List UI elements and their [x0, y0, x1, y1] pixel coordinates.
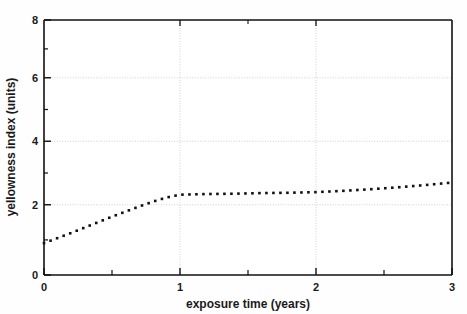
y-tick-label-6: 6	[32, 72, 38, 84]
data-point-marker	[377, 187, 380, 190]
data-point-marker	[95, 222, 98, 225]
data-point-marker	[433, 183, 436, 186]
data-point-marker	[272, 192, 275, 195]
data-point-marker	[244, 192, 247, 195]
data-point-marker	[356, 189, 359, 192]
data-point-marker	[265, 192, 268, 195]
data-point-marker	[363, 188, 366, 191]
data-point-marker	[405, 185, 408, 188]
data-point-marker	[321, 191, 324, 194]
data-point-marker	[202, 193, 205, 196]
data-point-marker	[412, 185, 415, 188]
data-point-marker	[82, 227, 85, 230]
data-point-marker	[195, 193, 198, 196]
data-point-marker	[279, 192, 282, 195]
x-tick-labels: 0 1 2 3	[41, 281, 455, 293]
chart-figure: 8 6 4 2 0 0 1 2 3 exposure time (years) …	[0, 0, 467, 314]
data-point-marker	[391, 186, 394, 189]
data-point-marker	[174, 194, 177, 197]
data-point-marker	[75, 229, 78, 232]
data-point-marker	[209, 193, 212, 196]
x-tick-label-2: 2	[313, 281, 319, 293]
data-point-marker	[293, 191, 296, 194]
data-point-marker	[154, 200, 157, 203]
data-point-marker	[251, 192, 254, 195]
data-point-marker	[342, 190, 345, 193]
data-point-marker	[108, 216, 111, 219]
data-point-marker	[328, 190, 331, 193]
data-point-marker	[384, 187, 387, 190]
x-tick-label-0: 0	[41, 281, 47, 293]
data-point-marker	[167, 196, 170, 199]
x-axis-title: exposure time (years)	[186, 297, 310, 311]
data-point-marker	[134, 207, 137, 210]
x-tick-label-1: 1	[177, 281, 183, 293]
x-tick-label-3: 3	[449, 281, 455, 293]
data-point-marker	[286, 191, 289, 194]
data-point-marker	[188, 193, 191, 196]
data-point-marker	[56, 237, 59, 240]
plot-background	[44, 20, 452, 275]
y-tick-label-4: 4	[32, 135, 39, 147]
data-point-marker	[43, 242, 46, 245]
data-point-marker	[349, 189, 352, 192]
data-point-marker	[216, 193, 219, 196]
data-point-marker	[101, 219, 104, 222]
data-point-marker	[121, 212, 124, 215]
data-point-marker	[426, 184, 429, 187]
y-tick-label-2: 2	[32, 199, 38, 211]
data-point-marker	[161, 198, 164, 201]
data-point-marker	[370, 188, 373, 191]
data-point-marker	[230, 192, 233, 195]
data-point-marker	[181, 193, 184, 196]
data-point-marker	[440, 182, 443, 185]
data-point-marker	[69, 232, 72, 235]
data-point-marker	[307, 191, 310, 194]
y-tick-labels: 8 6 4 2 0	[32, 14, 39, 281]
line-chart: 8 6 4 2 0 0 1 2 3 exposure time (years) …	[0, 0, 467, 314]
data-point-marker	[447, 182, 450, 185]
data-point-marker	[258, 192, 261, 195]
data-point-marker	[223, 193, 226, 196]
data-point-marker	[147, 202, 150, 205]
y-axis-title: yellowness index (units)	[4, 78, 18, 217]
data-point-marker	[88, 224, 91, 227]
y-tick-label-0: 0	[32, 269, 38, 281]
data-point-marker	[141, 204, 144, 207]
data-point-marker	[62, 234, 65, 237]
y-tick-label-8: 8	[32, 14, 38, 26]
data-point-marker	[419, 184, 422, 187]
data-point-marker	[237, 192, 240, 195]
data-point-marker	[300, 191, 303, 194]
data-point-marker	[335, 190, 338, 193]
data-point-marker	[114, 214, 117, 217]
data-point-marker	[398, 186, 401, 189]
data-point-marker	[314, 191, 317, 194]
data-point-marker	[49, 239, 52, 242]
data-point-marker	[128, 209, 131, 212]
